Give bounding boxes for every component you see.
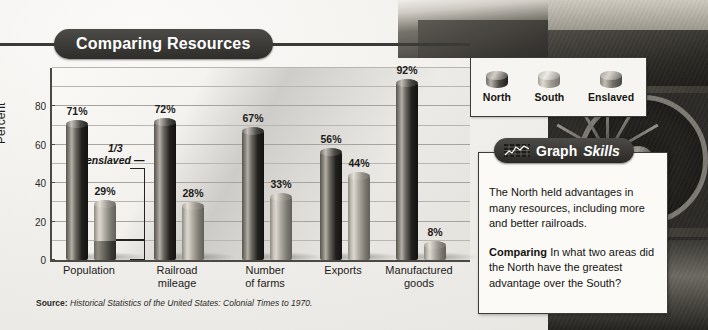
legend-label: Enslaved: [588, 91, 634, 103]
graph-skills-badge-title: Graph: [536, 143, 577, 159]
y-axis-label: 60: [30, 139, 46, 150]
bar-value-label: 72%: [154, 103, 175, 115]
y-axis-tick: [50, 144, 55, 145]
bar-group: 67%33%: [242, 131, 292, 260]
bar-north: 67%: [242, 131, 264, 260]
bar-value-label: 33%: [270, 178, 291, 190]
bar-north: 92%: [396, 83, 418, 260]
bar-cap: [270, 193, 292, 201]
legend-item-enslaved: Enslaved: [588, 71, 634, 103]
bar-value-label: 71%: [66, 105, 87, 117]
bar-north: 72%: [154, 122, 176, 260]
source-label: Source:: [36, 298, 68, 308]
y-axis-tick: [50, 182, 55, 183]
graph-skills-badge-subtitle: Skills: [583, 143, 620, 159]
bar-group: 92%8%: [396, 83, 446, 260]
legend-item-north: North: [483, 71, 511, 103]
bar-cap: [424, 241, 446, 249]
bar-value-label: 8%: [427, 226, 442, 238]
bar-group: 56%44%: [320, 152, 370, 260]
bar-group: 72%28%: [154, 122, 204, 260]
y-axis-tick: [50, 259, 55, 260]
cylinder-light-icon: [538, 71, 560, 88]
source-citation: Historical Statistics of the United Stat…: [70, 298, 312, 308]
y-axis-label: 40: [30, 178, 46, 189]
legend-label: South: [535, 91, 565, 103]
bar-value-label: 28%: [182, 187, 203, 199]
enslaved-segment: [94, 241, 116, 260]
bar-value-label: 67%: [242, 112, 263, 124]
bar-cap: [66, 120, 88, 128]
figure-page: Comparing Resources Percent 71%29%72%28%…: [0, 0, 708, 330]
y-axis-label: 20: [30, 216, 46, 227]
bar-value-label: 44%: [348, 157, 369, 169]
bar-north: 56%: [320, 152, 342, 260]
plot-area: 71%29%72%28%67%33%56%44%92%8%1/3enslaved…: [50, 68, 470, 262]
y-axis-label: 80: [30, 101, 46, 112]
photo-top-strip: [398, 0, 568, 58]
source-note: Source: Historical Statistics of the Uni…: [36, 298, 312, 308]
graph-skills-question: Comparing In what two areas did the Nort…: [489, 245, 655, 292]
legend-label: North: [483, 91, 511, 103]
bar-value-label: 92%: [396, 64, 417, 76]
bar-body: [348, 176, 370, 260]
bar-south: 28%: [182, 206, 204, 260]
graph-skills-question-label: Comparing: [489, 246, 547, 258]
photo-train-car: [418, 20, 568, 58]
bar-south: 44%: [348, 176, 370, 260]
bar-cap: [348, 172, 370, 180]
bar-south: 33%: [270, 197, 292, 260]
bar-body: [270, 197, 292, 260]
x-axis-label: Railroadmileage: [129, 264, 225, 290]
y-axis-title: Percent: [0, 103, 8, 144]
bar-body: [182, 206, 204, 260]
cylinder-medium-icon: [600, 71, 622, 88]
cylinder-dark-icon: [486, 71, 508, 88]
bar-south: 29%: [94, 204, 116, 260]
x-axis-label: Manufacturedgoods: [371, 264, 467, 290]
annotation-pointer: [116, 239, 144, 240]
bar-north: 71%: [66, 124, 88, 260]
graph-skills-badge: Graph Skills: [494, 138, 634, 163]
bar-body: [66, 124, 88, 260]
bar-value-label: 29%: [94, 185, 115, 197]
bar-chart: Percent 71%29%72%28%67%33%56%44%92%8%1/3…: [0, 62, 480, 312]
bar-body: [242, 131, 264, 260]
bar-body: [154, 122, 176, 260]
bar-body: [396, 83, 418, 260]
x-axis-label: Population: [41, 264, 137, 277]
y-axis-tick: [50, 105, 55, 106]
bar-body: [320, 152, 342, 260]
annotation-bracket: [130, 168, 145, 260]
figure-title: Comparing Resources: [54, 29, 273, 59]
chart-legend: North South Enslaved: [470, 57, 647, 117]
graph-skills-panel: The North held advantages in many resour…: [478, 152, 668, 314]
graph-skills-paragraph: The North held advantages in many resour…: [489, 185, 655, 232]
legend-item-south: South: [535, 71, 565, 103]
bar-cap: [154, 118, 176, 126]
bar-value-label: 56%: [320, 133, 341, 145]
y-axis-tick: [50, 221, 55, 222]
line-chart-icon: [504, 144, 530, 157]
bar-south: 8%: [424, 245, 446, 260]
graph-skills-body: The North held advantages in many resour…: [489, 185, 655, 304]
annotation-label: 1/3enslaved —: [86, 142, 144, 166]
